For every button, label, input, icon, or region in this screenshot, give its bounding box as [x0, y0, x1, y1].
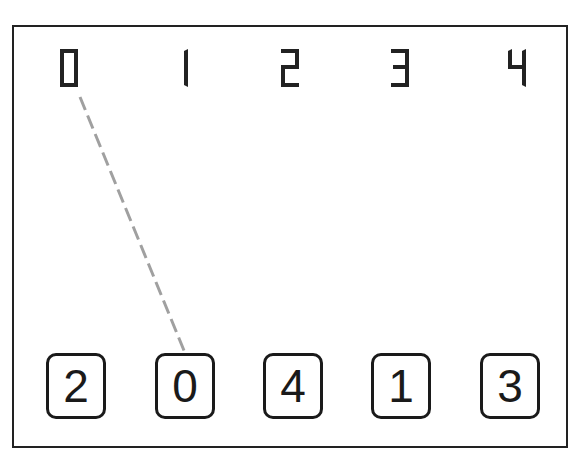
position-label-0: [57, 47, 81, 89]
number-card-3[interactable]: 3: [480, 353, 540, 419]
position-label-4: [505, 47, 529, 89]
seven-seg-digit-0-icon: [57, 47, 81, 89]
seven-seg-digit-4-icon: [505, 47, 529, 89]
position-label-2: [278, 47, 302, 89]
number-card-0[interactable]: 0: [155, 353, 215, 419]
number-card-2[interactable]: 2: [46, 353, 106, 419]
seven-seg-digit-3-icon: [388, 47, 412, 89]
seven-seg-digit-2-icon: [278, 47, 302, 89]
number-card-1[interactable]: 1: [371, 353, 431, 419]
position-label-1: [174, 47, 198, 89]
seven-seg-digit-1-icon: [174, 47, 198, 89]
position-label-3: [388, 47, 412, 89]
number-card-4[interactable]: 4: [263, 353, 323, 419]
